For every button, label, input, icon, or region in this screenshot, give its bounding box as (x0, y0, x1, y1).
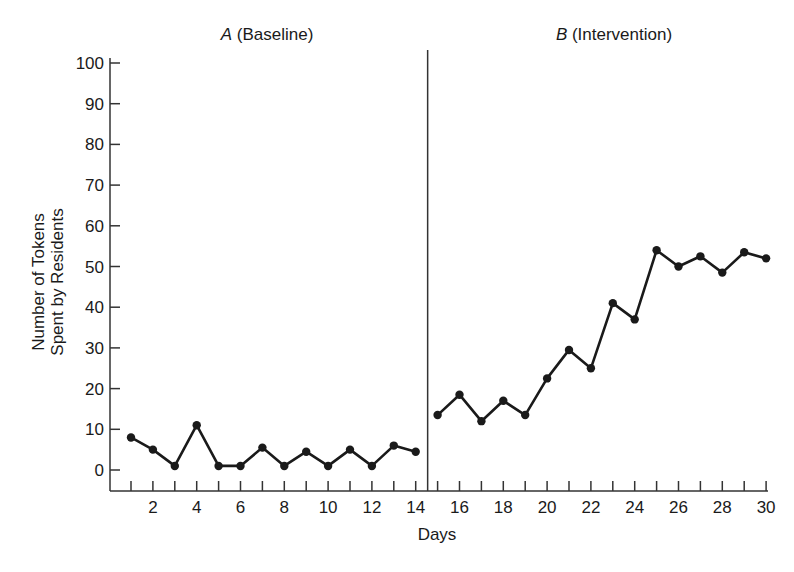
y-tick-label: 40 (85, 298, 104, 317)
data-point (631, 315, 639, 323)
y-tick-label: 10 (85, 420, 104, 439)
x-tick-label: 10 (319, 498, 338, 517)
series-line-1 (438, 250, 766, 421)
data-point (433, 411, 441, 419)
data-point (674, 262, 682, 270)
series-line-0 (131, 425, 416, 466)
data-point (236, 462, 244, 470)
data-point (587, 364, 595, 372)
phase-title-intervention: B (Intervention) (556, 25, 672, 44)
x-tick-label: 24 (625, 498, 644, 517)
x-axis: 24681012141618202224262830 (110, 481, 776, 517)
y-axis: 0102030405060708090100 (76, 54, 120, 491)
data-point (302, 447, 310, 455)
x-tick-label: 12 (362, 498, 381, 517)
y-tick-label: 20 (85, 380, 104, 399)
x-tick-label: 28 (713, 498, 732, 517)
data-point (652, 246, 660, 254)
x-tick-label: 30 (757, 498, 776, 517)
data-point (346, 445, 354, 453)
x-axis-title: Days (418, 525, 457, 544)
data-point (390, 441, 398, 449)
x-tick-label: 2 (148, 498, 157, 517)
y-tick-label: 100 (76, 54, 104, 73)
data-point (696, 252, 704, 260)
y-tick-label: 80 (85, 135, 104, 154)
data-point (740, 248, 748, 256)
data-point (171, 462, 179, 470)
data-point (368, 462, 376, 470)
data-point (543, 374, 551, 382)
x-tick-label: 26 (669, 498, 688, 517)
data-point (258, 443, 266, 451)
data-point (762, 254, 770, 262)
data-point (477, 417, 485, 425)
x-tick-label: 6 (236, 498, 245, 517)
data-point (718, 268, 726, 276)
x-tick-label: 14 (406, 498, 425, 517)
x-tick-label: 20 (538, 498, 557, 517)
x-tick-label: 16 (450, 498, 469, 517)
data-point (521, 411, 529, 419)
data-point (499, 397, 507, 405)
phase-titles: A (Baseline)B (Intervention) (220, 25, 672, 44)
y-tick-label: 70 (85, 176, 104, 195)
y-axis-title: Number of TokensSpent by Residents (29, 208, 67, 355)
data-point (609, 299, 617, 307)
data-point (214, 462, 222, 470)
y-tick-label: 30 (85, 339, 104, 358)
data-point (412, 447, 420, 455)
data-point (193, 421, 201, 429)
data-point (280, 462, 288, 470)
phase-title-baseline: A (Baseline) (220, 25, 314, 44)
ab-design-line-chart: 0102030405060708090100 24681012141618202… (0, 0, 794, 572)
y-tick-label: 0 (95, 461, 104, 480)
y-tick-label: 90 (85, 95, 104, 114)
data-point (565, 346, 573, 354)
x-tick-label: 8 (280, 498, 289, 517)
data-point (324, 462, 332, 470)
x-tick-label: 4 (192, 498, 201, 517)
data-point (455, 391, 463, 399)
data-point (127, 433, 135, 441)
x-tick-label: 22 (581, 498, 600, 517)
y-tick-label: 50 (85, 258, 104, 277)
data-series (127, 246, 771, 470)
x-tick-label: 18 (494, 498, 513, 517)
y-tick-label: 60 (85, 217, 104, 236)
data-point (149, 445, 157, 453)
